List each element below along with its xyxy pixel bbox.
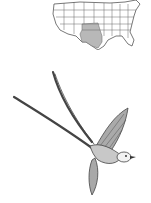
flycatcher-illustration	[0, 60, 151, 203]
bird-icon	[0, 60, 151, 203]
us-map-icon	[50, 0, 142, 50]
range-map	[50, 0, 142, 50]
